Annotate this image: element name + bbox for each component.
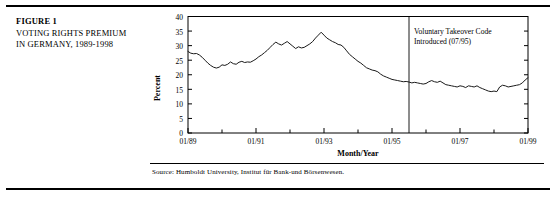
figure-container: FIGURE 1 VOTING RIGHTS PREMIUM IN GERMAN… bbox=[0, 0, 556, 202]
line-chart: Percent 40 35 30 25 20 15 10 5 0 Volunta bbox=[150, 10, 546, 160]
y-tick-label: 5 bbox=[179, 115, 183, 124]
annotation-line-2: Introduced (07/95) bbox=[414, 37, 472, 46]
x-axis-tick-labels: 01/89 01/91 01/93 01/95 01/97 01/99 bbox=[179, 137, 536, 146]
source-rule bbox=[150, 163, 544, 164]
x-axis-title: Month/Year bbox=[337, 149, 379, 158]
source-note: Source: Humboldt University, Institut fü… bbox=[152, 168, 344, 176]
chart-svg: Percent 40 35 30 25 20 15 10 5 0 Volunta bbox=[150, 10, 546, 160]
figure-caption: FIGURE 1 VOTING RIGHTS PREMIUM IN GERMAN… bbox=[16, 16, 146, 50]
annotation-line-1: Voluntary Takeover Code bbox=[414, 27, 492, 36]
bottom-rule bbox=[6, 188, 550, 190]
figure-caption-line-1: VOTING RIGHTS PREMIUM bbox=[16, 28, 146, 39]
x-tick-label: 01/93 bbox=[315, 137, 332, 146]
y-tick-label: 25 bbox=[176, 57, 184, 66]
y-tick-label: 35 bbox=[176, 28, 184, 37]
x-tick-label: 01/95 bbox=[383, 137, 400, 146]
x-axis-ticks bbox=[188, 128, 528, 133]
top-rule bbox=[6, 5, 550, 7]
y-axis-title: Percent bbox=[153, 75, 162, 101]
x-tick-label: 01/89 bbox=[179, 137, 196, 146]
y-tick-label: 10 bbox=[176, 100, 184, 109]
figure-label: FIGURE 1 bbox=[16, 16, 146, 27]
figure-caption-line-2: IN GERMANY, 1989-1998 bbox=[16, 39, 146, 50]
y-axis-tick-labels: 40 35 30 25 20 15 10 5 0 bbox=[176, 13, 184, 138]
x-tick-label: 01/99 bbox=[519, 137, 536, 146]
y-tick-label: 20 bbox=[176, 71, 184, 80]
series-voting-rights-premium bbox=[188, 32, 528, 91]
y-tick-label: 15 bbox=[176, 86, 184, 95]
y-tick-label: 40 bbox=[176, 13, 184, 22]
x-tick-label: 01/91 bbox=[247, 137, 264, 146]
x-tick-label: 01/97 bbox=[451, 137, 468, 146]
y-tick-label: 30 bbox=[176, 42, 184, 51]
